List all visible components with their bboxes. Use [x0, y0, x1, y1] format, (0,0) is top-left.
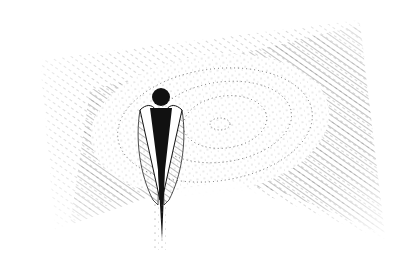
- stippled-angel-illustration: [0, 0, 402, 271]
